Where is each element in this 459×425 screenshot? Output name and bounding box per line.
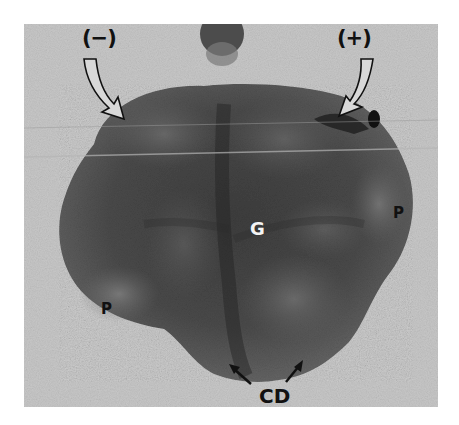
positive-pole-label: (+): [337, 28, 371, 49]
negative-pole-label: (−): [82, 28, 116, 49]
left-lobe-label-p: P: [101, 302, 112, 317]
bottom-label-cd: CD: [259, 386, 290, 406]
center-label-g: G: [250, 220, 265, 238]
specimen-illustration: [24, 24, 438, 407]
specimen-photo: (−) (+) G P P CD: [24, 24, 438, 407]
left-lobe-shape: [79, 266, 159, 322]
right-lobe-label-p: P: [393, 206, 404, 221]
